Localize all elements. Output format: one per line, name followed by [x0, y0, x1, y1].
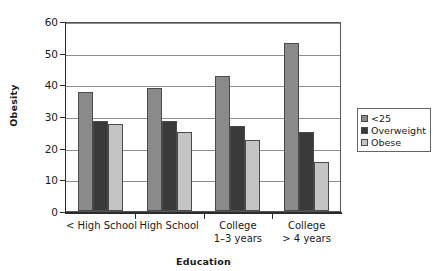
legend-swatch-icon [361, 127, 368, 134]
y-axis-tick-mark [60, 180, 66, 181]
bar [147, 88, 162, 212]
legend-item-label: <25 [371, 113, 391, 124]
legend-item: Obese [361, 136, 426, 148]
y-axis-tick-label: 0 [30, 206, 58, 218]
bar [230, 126, 245, 212]
x-axis-category-label-line: College [272, 220, 341, 233]
y-axis-title: Obesity [8, 76, 19, 136]
x-axis-tick-mark [272, 214, 273, 219]
legend-swatch-icon [361, 115, 368, 122]
x-axis-tick-mark [135, 214, 136, 219]
x-axis-category-label-line: < High School [66, 220, 135, 233]
y-axis-tick-label: 30 [30, 111, 58, 123]
x-axis-category-label-line: > 4 years [272, 233, 341, 246]
bar [245, 140, 260, 211]
bar [299, 132, 314, 211]
x-axis-tick-mark [204, 214, 205, 219]
x-axis-category-label-line: College [204, 220, 273, 233]
x-axis-category-label: < High School [66, 220, 135, 233]
bar [78, 92, 93, 211]
bar [284, 43, 299, 211]
y-axis-tick-label: 40 [30, 79, 58, 91]
legend-item: <25 [361, 112, 426, 124]
legend-swatch-icon [361, 139, 368, 146]
bar [177, 132, 192, 211]
y-axis-tick-mark [60, 22, 66, 23]
x-axis-title: Education [66, 256, 341, 267]
y-axis-tick-label: 50 [30, 48, 58, 60]
y-axis-tick-mark [60, 117, 66, 118]
x-axis-category-label: High School [135, 220, 204, 233]
bar [162, 121, 177, 211]
legend: <25OverweightObese [357, 108, 431, 152]
x-axis-category-label: College1–3 years [204, 220, 273, 245]
x-axis-category-label-line: 1–3 years [204, 233, 273, 246]
y-axis-tick-mark [60, 85, 66, 86]
y-axis-tick-mark [60, 212, 66, 213]
y-axis-tick-mark [60, 54, 66, 55]
bar [215, 76, 230, 211]
bar [93, 121, 108, 211]
y-axis-tick-label: 60 [30, 16, 58, 28]
legend-item-label: Obese [371, 137, 401, 148]
bar [314, 162, 329, 211]
bars-layer [66, 23, 340, 211]
x-axis-category-label-line: High School [135, 220, 204, 233]
x-axis-category-label: College> 4 years [272, 220, 341, 245]
y-axis-tick-label: 20 [30, 143, 58, 155]
legend-item: Overweight [361, 124, 426, 136]
bar [108, 124, 123, 211]
bar-chart-figure: Obesity 0102030405060 Education <25Overw… [0, 0, 433, 271]
y-axis-tick-mark [60, 149, 66, 150]
legend-item-label: Overweight [371, 125, 426, 136]
y-axis-tick-label: 10 [30, 174, 58, 186]
y-axis-tick-labels: 0102030405060 [30, 22, 58, 212]
plot-area [66, 22, 341, 212]
